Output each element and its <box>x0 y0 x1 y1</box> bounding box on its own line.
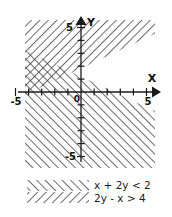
legend-swatch-row-2 <box>27 192 89 203</box>
x-axis-arrow <box>152 87 161 98</box>
shaded-regions <box>5 5 167 200</box>
origin-label: 0 <box>74 94 80 104</box>
x-max-tick-label: 5 <box>145 96 152 107</box>
y-max-tick-label: 5 <box>66 22 73 33</box>
legend: x + 2y < 2 2y - x > 4 <box>27 179 151 204</box>
y-axis-label: Y <box>86 16 96 29</box>
x-axis-label: X <box>148 72 157 85</box>
plot-svg: X Y -5 5 5 -5 0 x + 2y < 2 2y - x > 4 <box>0 0 172 217</box>
legend-entry-2-label: 2y - x > 4 <box>94 192 146 204</box>
legend-entry-1-label: x + 2y < 2 <box>94 179 151 191</box>
x-min-tick-label: -5 <box>10 96 21 107</box>
legend-swatch-row-1 <box>27 180 89 191</box>
inequality-graph-figure: X Y -5 5 5 -5 0 x + 2y < 2 2y - x > 4 <box>0 0 172 217</box>
y-min-tick-label: -5 <box>65 151 76 162</box>
